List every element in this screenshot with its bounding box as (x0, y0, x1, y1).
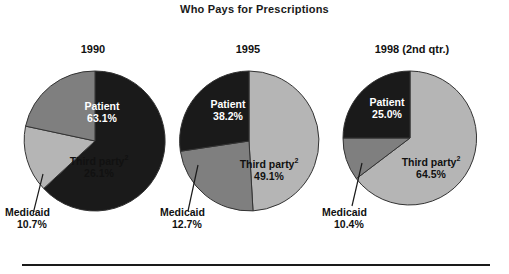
pie-chart-1998: Patient 25.0% Third party2 64.5% (340, 68, 480, 208)
slice-value-third-party-1995: 49.1% (254, 170, 284, 182)
bottom-divider (22, 264, 490, 266)
pie-chart-1995: Patient 38.2% Third party2 49.1% (176, 68, 322, 214)
footnote-marker-third-party-1990: 2 (124, 154, 128, 161)
slice-name-third-party-1995: Third party (240, 158, 295, 170)
pie-slice-label-patient-1995: Patient 38.2% (184, 98, 272, 122)
pie-year-label-1995: 1995 (158, 43, 338, 55)
pie-svg-1995 (176, 68, 322, 214)
slice-value-patient-1998: 25.0% (372, 108, 402, 120)
slice-name-third-party-1990: Third party (70, 155, 125, 167)
pie-svg-1990 (22, 68, 168, 214)
slice-value-medicaid-1995: 12.7% (172, 218, 202, 230)
pie-slice-third-party-1995 (249, 71, 319, 211)
slice-name-medicaid-1995: Medicaid (160, 206, 205, 218)
slice-name-patient-1990: Patient (84, 100, 119, 112)
slice-value-patient-1990: 63.1% (87, 112, 117, 124)
slice-value-third-party-1990: 26.1% (84, 167, 114, 179)
pie-outside-label-medicaid-1995: Medicaid 12.7% (160, 206, 205, 230)
pie-slice-label-patient-1990: Patient 63.1% (58, 100, 146, 124)
slice-value-medicaid-1998: 10.4% (334, 218, 364, 230)
slice-name-patient-1998: Patient (369, 96, 404, 108)
pie-year-label-1990: 1990 (3, 43, 183, 55)
pie-chart-1990: Patient 63.1% Third party2 26.1% (22, 68, 168, 214)
pie-outside-label-medicaid-1998: Medicaid 10.4% (322, 206, 367, 230)
footnote-marker-third-party-1998: 2 (456, 155, 460, 162)
pie-slice-label-third-party-1995: Third party2 49.1% (216, 155, 322, 182)
slice-name-patient-1995: Patient (210, 98, 245, 110)
slice-name-medicaid-1990: Medicaid (5, 206, 50, 218)
pie-outside-label-medicaid-1990: Medicaid 10.7% (5, 206, 50, 230)
slice-value-medicaid-1990: 10.7% (17, 218, 47, 230)
page-title: Who Pays for Prescriptions (0, 3, 509, 15)
slice-value-third-party-1998: 64.5% (416, 168, 446, 180)
slice-name-medicaid-1998: Medicaid (322, 206, 367, 218)
pie-svg-1998 (340, 68, 480, 208)
pie-year-label-1998: 1998 (2nd qtr.) (322, 43, 502, 55)
pie-slice-label-patient-1998: Patient 25.0% (346, 96, 428, 120)
pie-slice-label-third-party-1998: Third party2 64.5% (378, 153, 484, 180)
slice-name-third-party-1998: Third party (402, 156, 457, 168)
slice-value-patient-1995: 38.2% (213, 110, 243, 122)
figure-who-pays-for-prescriptions: Who Pays for Prescriptions 1990 Patient … (0, 0, 509, 274)
pie-slice-label-third-party-1990: Third party2 26.1% (60, 152, 138, 179)
footnote-marker-third-party-1995: 2 (294, 157, 298, 164)
